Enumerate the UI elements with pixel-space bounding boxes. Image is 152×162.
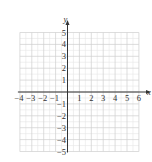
y-tick-label: 1 (62, 75, 66, 85)
y-tick-label: −1 (57, 99, 66, 109)
y-tick-label: −5 (57, 147, 66, 157)
x-tick-label: 1 (77, 93, 81, 103)
y-tick-label: 3 (62, 51, 66, 61)
y-tick-label: 5 (62, 28, 66, 38)
y-tick-label: −3 (57, 123, 66, 133)
x-tick-label: 5 (125, 93, 129, 103)
x-axis-label: x (146, 87, 151, 97)
y-axis-label: y (63, 14, 68, 24)
y-tick-label: 2 (62, 63, 66, 73)
x-tick-label: −4 (14, 93, 24, 103)
x-tick-label: 3 (101, 93, 105, 103)
x-tick-label: 4 (113, 93, 118, 103)
x-tick-label: 2 (89, 93, 93, 103)
y-tick-label: −2 (57, 111, 66, 121)
x-tick-label: 6 (137, 93, 141, 103)
x-tick-label: −3 (26, 93, 35, 103)
x-tick-label: −2 (38, 93, 47, 103)
coordinate-plane: −4−3−2−1123456 54321−1−2−3−4−5 x y (0, 0, 152, 162)
y-tick-label: −4 (57, 135, 67, 145)
